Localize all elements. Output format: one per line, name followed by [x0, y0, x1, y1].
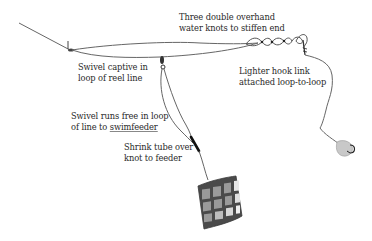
label-swivel-free-line2-prefix: of line to: [71, 122, 110, 132]
label-swivel-free-line1: Swivel runs free in loop: [71, 111, 169, 122]
swimfeeder-icon: [198, 176, 242, 229]
water-knots-icon: [246, 35, 307, 48]
reel-line-loop-lower: [72, 43, 258, 57]
label-hook-link-line1: Lighter hook link: [239, 66, 326, 77]
label-swivel-free: Swivel runs free in loop of line to swim…: [71, 111, 169, 132]
label-shrink-tube-line2: knot to feeder: [124, 153, 193, 164]
swimfeeder-link[interactable]: swimfeeder: [110, 122, 158, 132]
label-swivel-captive-line1: Swivel captive in: [78, 62, 148, 73]
feeder-drop-line: [199, 151, 208, 180]
label-hook-link: Lighter hook link attached loop-to-loop: [239, 66, 326, 87]
hook-with-bait-icon: [336, 141, 354, 157]
label-swivel-captive-line2: loop of reel line: [78, 73, 148, 84]
label-shrink-tube: Shrink tube over knot to feeder: [124, 142, 193, 163]
label-water-knots: Three double overhand water knots to sti…: [179, 12, 285, 33]
running-swivel-icon: [160, 56, 165, 69]
reel-line-loop-upper: [72, 42, 258, 50]
fishing-rig-diagram: [0, 0, 372, 241]
label-shrink-tube-line1: Shrink tube over: [124, 142, 193, 153]
label-hook-link-line2: attached loop-to-loop: [239, 77, 326, 88]
label-swivel-free-line2: of line to swimfeeder: [71, 122, 169, 133]
label-water-knots-line1: Three double overhand: [179, 12, 285, 23]
label-swivel-captive: Swivel captive in loop of reel line: [78, 62, 148, 83]
label-water-knots-line2: water knots to stiffen end: [179, 23, 285, 34]
reel-line: [19, 23, 70, 50]
